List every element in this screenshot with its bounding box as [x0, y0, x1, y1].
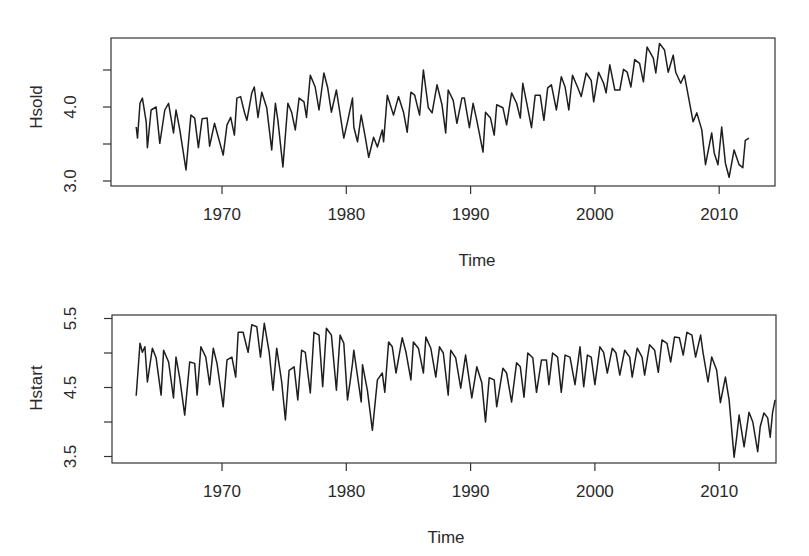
x-tick-label: 1970: [203, 205, 241, 224]
x-tick-label: 2010: [700, 482, 738, 501]
x-axis-label-bottom: Time: [427, 528, 464, 547]
y-tick-label: 4.0: [61, 95, 80, 119]
panel-hstart: 3.54.55.5 19701980199020002010 Time Hsta…: [27, 307, 776, 547]
panel-hsold: 3.04.0 19701980199020002010 Time Hsold: [27, 38, 775, 270]
x-tick-label: 1980: [327, 482, 365, 501]
y-axis-label-bottom: Hstart: [27, 365, 46, 411]
y-axis-label-top: Hsold: [27, 85, 46, 128]
x-axis-top: 19701980199020002010: [203, 186, 738, 224]
x-axis-label-top: Time: [458, 251, 495, 270]
y-axis-bottom: 3.54.55.5: [61, 307, 112, 469]
y-tick-label: 5.5: [61, 307, 80, 331]
x-tick-label: 1990: [452, 482, 490, 501]
y-tick-label: 3.0: [61, 169, 80, 193]
y-axis-top: 3.04.0: [61, 70, 111, 193]
hstart-series-line: [136, 323, 775, 457]
x-tick-label: 2010: [700, 205, 738, 224]
x-tick-label: 2000: [576, 482, 614, 501]
x-tick-label: 2000: [576, 205, 614, 224]
x-tick-label: 1970: [203, 482, 241, 501]
x-axis-bottom: 19701980199020002010: [203, 463, 738, 501]
y-tick-label: 3.5: [61, 445, 80, 469]
y-tick-label: 4.5: [61, 376, 80, 400]
x-tick-label: 1980: [327, 205, 365, 224]
chart-canvas: 3.04.0 19701980199020002010 Time Hsold 3…: [0, 0, 809, 556]
hsold-series-line: [136, 43, 749, 177]
x-tick-label: 1990: [452, 205, 490, 224]
